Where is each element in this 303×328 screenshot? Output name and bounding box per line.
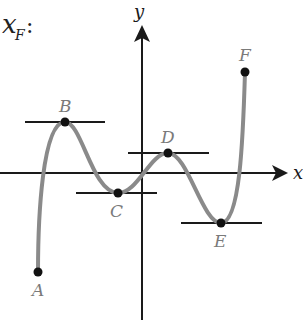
graph-diagram: A B C D E F x y x F : xyxy=(0,0,303,328)
title-colon: : xyxy=(26,13,33,38)
y-axis-label: y xyxy=(133,1,145,22)
title-label: x F : xyxy=(2,9,33,43)
label-e: E xyxy=(213,231,227,251)
label-d: D xyxy=(160,127,175,147)
point-c xyxy=(114,189,123,198)
label-b: B xyxy=(58,96,72,116)
label-c: C xyxy=(110,201,123,221)
point-e xyxy=(217,219,226,228)
point-d xyxy=(164,149,173,158)
point-f xyxy=(241,68,250,77)
point-b xyxy=(61,118,70,127)
title-subscript: F xyxy=(14,27,26,43)
label-f: F xyxy=(238,45,252,65)
point-a xyxy=(34,268,43,277)
label-a: A xyxy=(30,280,44,300)
x-axis-label: x xyxy=(293,162,303,183)
